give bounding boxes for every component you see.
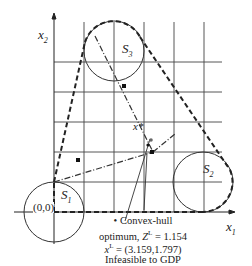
x1-axis-arrow-icon xyxy=(229,210,235,214)
set-s1-label: S1 xyxy=(61,188,72,205)
grid xyxy=(54,22,222,212)
x2-axis-label-sub: 2 xyxy=(44,36,48,45)
point-s2-marker xyxy=(150,150,154,154)
annotation-line-1: • Convex-hull xyxy=(78,214,208,227)
annotation-line-4: Infeasible to GDP xyxy=(78,253,208,266)
annotation-pointer xyxy=(125,139,150,221)
connector-lines xyxy=(54,36,175,182)
set-s3-label: S3 xyxy=(122,42,133,59)
convex-hull-boundary xyxy=(54,21,233,212)
set-s1-sub: 1 xyxy=(68,196,72,205)
x1-axis-label: x1 xyxy=(226,220,236,237)
point-s3-marker xyxy=(122,84,126,88)
xstar-label: x* xyxy=(133,121,143,132)
x1-axis-label-sub: 1 xyxy=(232,228,236,237)
set-s3-sub: 3 xyxy=(129,50,133,59)
set-s2-label: S2 xyxy=(203,162,214,179)
origin-label: (0,0) xyxy=(33,202,54,213)
point-s1-marker xyxy=(76,158,80,162)
point-xstar-marker xyxy=(146,143,149,146)
x2-axis-arrow-icon xyxy=(52,13,56,19)
x2-axis-label: x2 xyxy=(38,28,48,45)
point-hull-optimum-marker xyxy=(149,138,153,142)
set-s2-sub: 2 xyxy=(210,170,214,179)
